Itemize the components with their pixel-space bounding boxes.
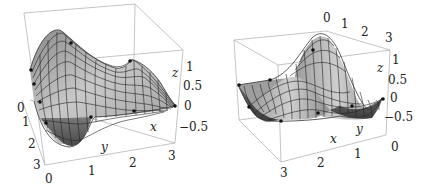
point [173,104,177,108]
point [132,109,136,113]
x-tick: 3 [280,166,288,180]
z-tick: 0.5 [388,73,407,87]
y-tick: 0 [323,11,331,25]
x-tick: 1 [354,147,362,161]
point [316,111,320,115]
y-tick: 0 [45,172,53,186]
y-tick: 2 [129,156,137,170]
point [69,41,73,45]
figure-canvas: 1 0.5 0 −0.5 z x y 0 1 2 3 0 1 2 3 [0,0,429,190]
y-tick: 2 [361,25,369,39]
x-tick: 0 [391,140,399,154]
point [38,100,42,104]
z-axis-label: z [171,66,179,80]
x-tick: 2 [317,156,325,170]
y-axis-label: y [100,140,108,154]
point [89,115,93,119]
right-plot: 0 1 2 3 1 0.5 0 −0.5 z y x 3 2 1 0 [234,11,413,180]
y-tick: 1 [88,164,96,178]
z-tick: 0 [184,99,192,113]
point [237,83,241,87]
y-tick: 3 [385,31,393,45]
point [279,119,283,123]
x-tick: 2 [28,137,36,151]
point [268,78,272,82]
y-axis-label: y [355,122,363,136]
x-tick: 3 [33,158,41,172]
x-tick: 1 [22,115,30,129]
z-axis-label: z [376,61,384,75]
point [128,59,132,63]
right-surface [238,34,382,122]
z-tick: 0.5 [183,79,202,93]
point [311,48,315,52]
point [44,121,48,125]
z-tick: 1 [392,53,400,67]
z-tick: −0.5 [384,110,413,124]
point [29,68,33,72]
point [247,105,251,109]
x-axis-label: x [330,132,337,146]
z-tick: 1 [186,60,194,74]
point [350,104,354,108]
y-tick: 3 [168,149,176,163]
x-tick: 0 [17,101,25,115]
y-tick: 1 [341,17,349,31]
z-tick: −0.5 [179,120,208,134]
left-plot: 1 0.5 0 −0.5 z x y 0 1 2 3 0 1 2 3 [17,4,208,186]
z-tick: 0 [390,91,398,105]
point [381,97,385,101]
point [32,82,36,86]
x-axis-label: x [150,120,157,134]
